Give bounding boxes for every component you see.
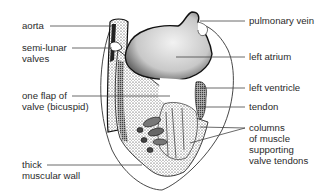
label-aorta: aorta <box>22 20 44 31</box>
label-tendon: tendon <box>249 101 278 112</box>
heart-diagram: aorta semi-lunar valves one flap of valv… <box>0 0 333 196</box>
label-pulmonary-vein: pulmonary vein <box>249 15 314 26</box>
label-one-flap: one flap of <box>22 90 67 101</box>
tendon-strip <box>195 82 206 120</box>
label-muscular-wall: muscular wall <box>22 170 80 181</box>
label-valve-tendons: valve tendons <box>249 155 308 166</box>
label-of-muscle: of muscle <box>249 133 290 144</box>
label-semi-lunar: semi-lunar <box>22 42 67 53</box>
label-thick: thick <box>22 159 42 170</box>
label-bicuspid: valve (bicuspid) <box>22 101 89 112</box>
label-supporting: supporting <box>249 144 294 155</box>
label-valves: valves <box>22 53 49 64</box>
label-left-atrium: left atrium <box>249 51 291 62</box>
label-columns: columns <box>249 122 285 133</box>
label-left-ventricle: left ventricle <box>249 82 300 93</box>
